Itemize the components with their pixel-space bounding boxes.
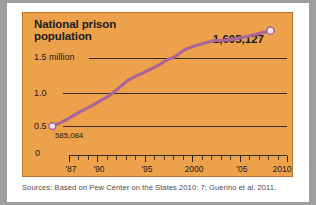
figure-card: National prison population 1,605,127 1.5… bbox=[7, 3, 309, 202]
x-tick-2004 bbox=[230, 156, 231, 160]
x-tick-label-2010: 2010 bbox=[273, 164, 292, 174]
x-tick-1992 bbox=[116, 156, 117, 160]
chart-plot-area: National prison population 1,605,127 1.5… bbox=[23, 13, 292, 176]
x-tick-1993 bbox=[126, 156, 127, 160]
x-tick-2000 bbox=[192, 156, 193, 162]
x-tick-1998 bbox=[173, 156, 174, 160]
x-tick-2003 bbox=[221, 156, 222, 160]
x-tick-1987 bbox=[69, 156, 70, 162]
x-tick-2009 bbox=[278, 156, 279, 160]
x-tick-label-2000: 2000 bbox=[185, 164, 204, 174]
x-tick-label-2005: '05 bbox=[236, 164, 247, 174]
x-tick-1999 bbox=[183, 156, 184, 160]
data-marker-2010 bbox=[267, 27, 274, 34]
x-tick-2005 bbox=[240, 156, 241, 162]
x-tick-2006 bbox=[249, 156, 250, 160]
x-tick-label-1995: '95 bbox=[141, 164, 152, 174]
x-tick-1989 bbox=[88, 156, 89, 160]
x-tick-2002 bbox=[211, 156, 212, 160]
x-tick-1988 bbox=[78, 156, 79, 160]
x-axis-line bbox=[69, 155, 287, 156]
x-tick-1994 bbox=[135, 156, 136, 160]
x-tick-label-1990: '90 bbox=[93, 164, 104, 174]
x-tick-1997 bbox=[164, 156, 165, 160]
x-tick-1995 bbox=[145, 156, 146, 162]
series-line-national-prison-population bbox=[23, 13, 294, 178]
x-tick-1996 bbox=[154, 156, 155, 160]
x-tick-label-1987: '87 bbox=[65, 164, 76, 174]
x-tick-2010 bbox=[287, 156, 288, 162]
x-tick-1990 bbox=[97, 156, 98, 162]
chart-panel: National prison population 1,605,127 1.5… bbox=[22, 12, 293, 177]
annotation-start-value: 585,084 bbox=[55, 131, 83, 140]
x-tick-2001 bbox=[202, 156, 203, 160]
source-note: Sources: Based on Pew Center on the Stat… bbox=[22, 183, 276, 192]
x-tick-2008 bbox=[268, 156, 269, 160]
x-tick-1991 bbox=[107, 156, 108, 160]
x-tick-2007 bbox=[259, 156, 260, 160]
data-marker-1987 bbox=[49, 123, 56, 130]
